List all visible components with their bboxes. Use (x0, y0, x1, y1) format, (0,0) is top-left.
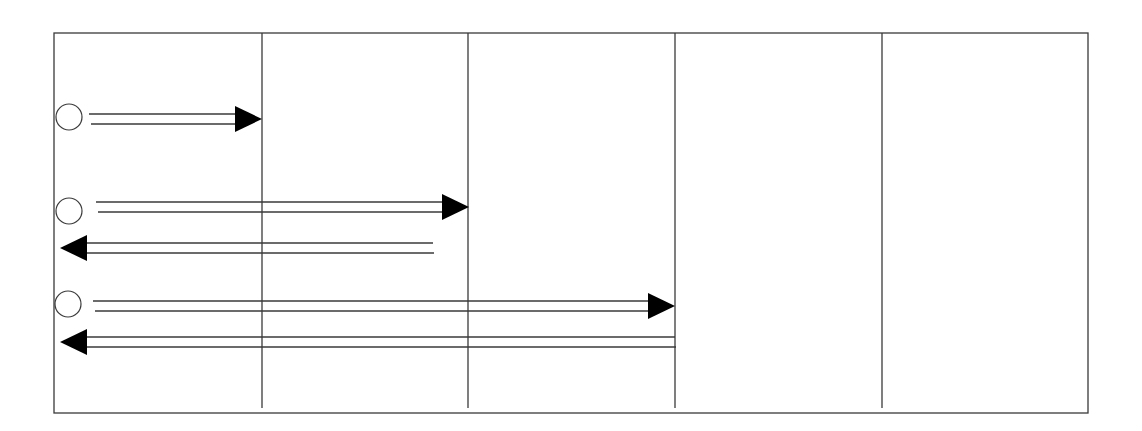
message-row-1 (56, 104, 262, 132)
arrowhead-right-icon (442, 194, 469, 220)
sequence-diagram (0, 0, 1142, 431)
message-rows (55, 104, 676, 355)
forward-message-arrow (93, 293, 675, 319)
return-message-arrow (60, 329, 676, 355)
initiator-circle-icon (56, 104, 82, 130)
arrowhead-right-icon (235, 106, 262, 132)
lane-dividers (262, 33, 882, 408)
forward-message-arrow (96, 194, 469, 220)
forward-message-arrow (89, 106, 262, 132)
diagram-svg (0, 0, 1142, 431)
arrowhead-left-icon (60, 235, 87, 261)
diagram-frame (54, 33, 1088, 413)
arrowhead-right-icon (648, 293, 675, 319)
initiator-circle-icon (56, 198, 82, 224)
initiator-circle-icon (55, 291, 81, 317)
message-row-3 (55, 291, 676, 355)
return-message-arrow (60, 235, 434, 261)
arrowhead-left-icon (60, 329, 87, 355)
